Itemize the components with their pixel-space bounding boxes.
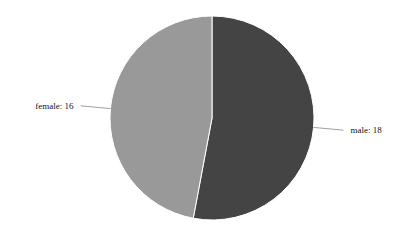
slice-label-female: female: 16 [35, 101, 74, 111]
leader-line-female [81, 106, 111, 109]
leader-line-male [314, 127, 344, 130]
pie-slice-female [110, 16, 212, 218]
pie-slices [110, 16, 314, 220]
slice-label-male: male: 18 [350, 125, 382, 135]
pie-chart: male: 18female: 16 [0, 0, 412, 233]
